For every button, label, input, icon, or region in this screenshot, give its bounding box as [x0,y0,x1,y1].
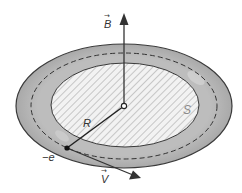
label-r: R [83,118,91,129]
center-point [121,103,126,108]
arrowhead-icon [129,171,141,180]
diagram-graphic [0,0,242,193]
arrowhead-icon [120,13,129,25]
label-b: B [104,19,111,30]
label-s: S [183,104,191,116]
label-charge: −e [42,152,55,163]
electron-dot [64,145,69,150]
label-v: V [101,174,108,185]
orbit-diagram: → B R S −e → V [0,0,242,193]
